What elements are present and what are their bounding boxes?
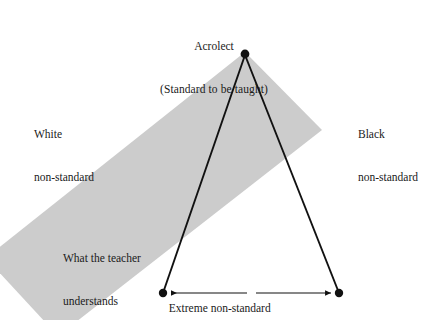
white-nonstandard-line1: White: [34, 127, 94, 141]
extreme-nonstandard-text: Extreme non-standard: [166, 302, 274, 314]
teacher-understands-line1: What the teacher: [63, 251, 141, 265]
black-nonstandard-line2: non-standard: [358, 170, 418, 184]
extreme-nonstandard-label: Extreme non-standard: [0, 287, 428, 320]
white-nonstandard-line2: non-standard: [34, 170, 94, 184]
white-nonstandard-label: White non-standard: [34, 98, 94, 213]
diagram-canvas: Acrolect (Standard to be taught) White n…: [0, 0, 428, 320]
acrolect-label-line2: (Standard to be taught): [0, 82, 428, 96]
black-nonstandard-label: Black non-standard: [358, 98, 418, 213]
acrolect-label-line1: Acrolect: [0, 39, 428, 53]
black-nonstandard-line1: Black: [358, 127, 418, 141]
